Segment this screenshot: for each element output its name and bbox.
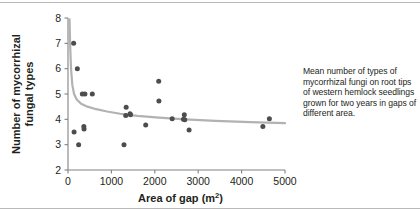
top-divider-rule — [0, 2, 420, 3]
y-tick-label-3: 3 — [55, 138, 61, 150]
bottom-divider-rule — [0, 208, 420, 209]
y-axis-title-line2: fungal types — [23, 62, 35, 127]
y-tick-label-5: 5 — [55, 88, 61, 100]
data-point-20 — [182, 117, 187, 122]
data-point-11 — [123, 113, 128, 118]
data-point-1 — [72, 130, 77, 135]
y-tick-label-7: 7 — [55, 37, 61, 49]
x-tick-label-0: 0 — [65, 175, 71, 187]
data-point-3 — [76, 142, 81, 147]
data-point-10 — [124, 105, 129, 110]
y-tick-label-2: 2 — [55, 164, 61, 176]
x-tick-label-4000: 4000 — [230, 175, 254, 187]
data-point-17 — [170, 116, 175, 121]
data-point-15 — [156, 79, 161, 84]
y-tick-label-6: 6 — [55, 62, 61, 74]
scatter-plot: 2345678010002000300040005000Area of gap … — [0, 4, 300, 207]
data-point-16 — [156, 99, 161, 104]
plot-svg: 2345678010002000300040005000Area of gap … — [0, 4, 300, 207]
data-point-0 — [71, 41, 76, 46]
data-point-8 — [90, 92, 95, 97]
data-point-21 — [187, 127, 192, 132]
data-point-2 — [75, 66, 80, 71]
data-point-23 — [267, 116, 272, 121]
data-point-22 — [260, 124, 265, 129]
y-axis-title-line1: Number of mycorrhizal — [10, 34, 22, 154]
data-point-14 — [143, 122, 148, 127]
x-tick-label-3000: 3000 — [187, 175, 211, 187]
fit-curve — [70, 19, 285, 123]
data-point-7 — [82, 126, 87, 131]
y-tick-label-8: 8 — [55, 12, 61, 24]
x-tick-label-5000: 5000 — [273, 175, 297, 187]
x-tick-label-2000: 2000 — [143, 175, 167, 187]
data-point-9 — [121, 142, 126, 147]
figure-caption: Mean number of types of mycorrhizal fung… — [303, 66, 419, 119]
data-points-group — [71, 41, 272, 147]
x-tick-label-1000: 1000 — [100, 175, 124, 187]
data-point-5 — [82, 92, 87, 97]
data-point-13 — [128, 112, 133, 117]
data-point-18 — [182, 112, 187, 117]
x-axis-title: Area of gap (m2) — [138, 191, 223, 204]
y-tick-label-4: 4 — [55, 113, 61, 125]
figure-container: 2345678010002000300040005000Area of gap … — [0, 0, 420, 211]
